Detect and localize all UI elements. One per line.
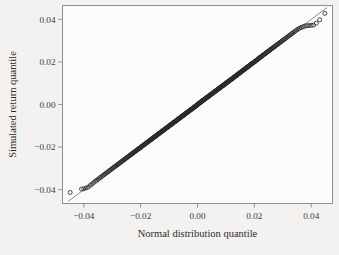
plot-canvas: −0.04−0.020.000.020.04 −0.04−0.020.000.0… (0, 0, 339, 255)
y-tick-label: 0.04 (39, 15, 55, 25)
x-tick-label: 0.02 (246, 211, 262, 221)
y-tick-label: −0.04 (34, 185, 56, 195)
x-tick-label: 0.04 (303, 211, 319, 221)
y-tick-label: 0.02 (39, 57, 55, 67)
y-tick-label: −0.02 (34, 142, 56, 152)
x-tick-label: 0.00 (189, 211, 205, 221)
y-axis-title: Simulated return quantile (7, 51, 18, 158)
y-tick-label: 0.00 (39, 100, 55, 110)
x-tick-label: −0.04 (73, 211, 95, 221)
qq-plot-figure: −0.04−0.020.000.020.04 −0.04−0.020.000.0… (0, 0, 339, 255)
x-tick-label: −0.02 (130, 211, 152, 221)
x-axis-title: Normal distribution quantile (138, 228, 258, 239)
